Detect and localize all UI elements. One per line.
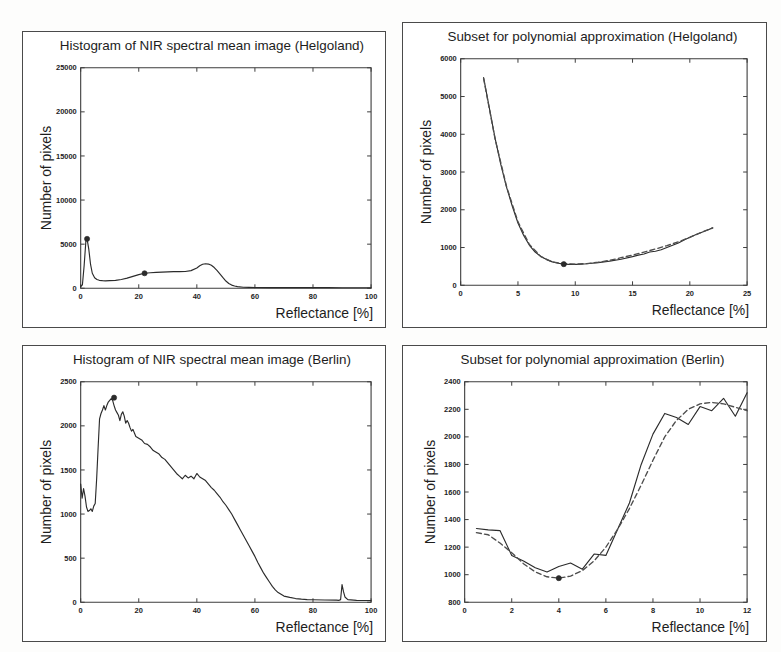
y-tick-label: 5000 [440, 92, 457, 101]
y-tick-label: 2400 [444, 377, 461, 386]
x-tick-label: 8 [651, 606, 655, 615]
y-tick-label: 0 [73, 284, 77, 293]
x-tick-label: 10 [696, 606, 704, 615]
fit-curve [476, 402, 747, 578]
chart-histogram-berlin: Histogram of NIR spectral mean image (Be… [23, 346, 385, 641]
x-axis-title: Reflectance [%] [652, 302, 749, 318]
marker-dot [556, 576, 561, 581]
plot-frame [81, 68, 371, 289]
x-tick-label: 60 [251, 606, 259, 615]
x-tick-label: 2 [510, 606, 514, 615]
y-axis-title: Number of pixels [38, 126, 54, 230]
y-tick-label: 1600 [444, 488, 461, 497]
marker-dot [142, 271, 147, 276]
y-tick-label: 500 [64, 554, 76, 563]
y-tick-label: 2000 [444, 432, 461, 441]
x-tick-label: 40 [193, 292, 201, 301]
y-tick-label: 1500 [60, 466, 77, 475]
x-tick-label: 6 [604, 606, 608, 615]
x-tick-label: 100 [365, 292, 377, 301]
y-tick-label: 25000 [56, 63, 77, 72]
panel-histogram-berlin: Histogram of NIR spectral mean image (Be… [22, 345, 386, 642]
marker-dot [111, 395, 116, 400]
x-tick-label: 12 [743, 606, 751, 615]
data-curve [476, 393, 747, 572]
y-tick-label: 2500 [60, 377, 77, 386]
y-tick-label: 1400 [444, 515, 461, 524]
marker-dot [84, 236, 89, 241]
y-tick-label: 4000 [440, 130, 457, 139]
y-tick-label: 1000 [60, 510, 77, 519]
plot-frame [461, 59, 747, 286]
x-tick-label: 80 [309, 292, 317, 301]
x-tick-label: 0 [463, 606, 467, 615]
y-tick-label: 15000 [56, 152, 77, 161]
figure-sheet: Histogram of NIR spectral mean image (He… [0, 0, 781, 652]
x-tick-label: 15 [628, 289, 636, 298]
x-tick-label: 40 [193, 606, 201, 615]
y-axis-title: Number of pixels [418, 120, 434, 224]
y-tick-label: 1200 [444, 543, 461, 552]
y-tick-label: 2200 [444, 405, 461, 414]
y-tick-label: 1800 [444, 460, 461, 469]
x-tick-label: 80 [309, 606, 317, 615]
x-tick-label: 60 [251, 292, 259, 301]
data-curve [81, 399, 371, 601]
marker-dot [561, 262, 566, 267]
chart-title: Histogram of NIR spectral mean image (He… [60, 38, 364, 53]
y-tick-label: 1000 [440, 243, 457, 252]
y-tick-label: 1000 [444, 570, 461, 579]
chart-subset-berlin: Subset for polynomial approximation (Ber… [403, 346, 766, 641]
x-tick-label: 10 [571, 289, 579, 298]
fit-curve [484, 78, 713, 264]
y-tick-label: 10000 [56, 196, 77, 205]
y-tick-label: 800 [448, 598, 460, 607]
x-tick-label: 25 [743, 289, 751, 298]
panel-subset-berlin: Subset for polynomial approximation (Ber… [402, 345, 767, 642]
x-tick-label: 100 [365, 606, 377, 615]
x-tick-label: 20 [135, 606, 143, 615]
panel-subset-helgoland: Subset for polynomial approximation (Hel… [402, 22, 767, 328]
y-tick-label: 5000 [60, 240, 77, 249]
y-tick-label: 6000 [440, 54, 457, 63]
chart-title: Subset for polynomial approximation (Ber… [460, 352, 724, 367]
x-tick-label: 0 [79, 292, 83, 301]
data-curve [484, 78, 713, 265]
chart-title: Subset for polynomial approximation (Hel… [447, 29, 737, 44]
x-axis-title: Reflectance [%] [276, 305, 373, 321]
y-tick-label: 2000 [440, 205, 457, 214]
x-tick-label: 0 [79, 606, 83, 615]
y-tick-label: 20000 [56, 107, 77, 116]
y-tick-label: 0 [453, 281, 457, 290]
y-axis-title: Number of pixels [38, 440, 54, 544]
x-tick-label: 0 [459, 289, 463, 298]
panel-histogram-helgoland: Histogram of NIR spectral mean image (He… [22, 31, 386, 328]
y-axis-title: Number of pixels [422, 440, 438, 544]
x-tick-label: 20 [135, 292, 143, 301]
x-tick-label: 4 [557, 606, 562, 615]
data-curve [81, 239, 371, 288]
x-tick-label: 20 [686, 289, 694, 298]
x-axis-title: Reflectance [%] [276, 619, 373, 635]
x-axis-title: Reflectance [%] [652, 619, 749, 635]
x-tick-label: 5 [516, 289, 520, 298]
plot-frame [465, 382, 747, 603]
chart-histogram-helgoland: Histogram of NIR spectral mean image (He… [23, 32, 385, 327]
chart-title: Histogram of NIR spectral mean image (Be… [73, 352, 351, 367]
chart-subset-helgoland: Subset for polynomial approximation (Hel… [403, 23, 766, 327]
y-tick-label: 3000 [440, 168, 457, 177]
y-tick-label: 2000 [60, 421, 77, 430]
y-tick-label: 0 [73, 598, 77, 607]
